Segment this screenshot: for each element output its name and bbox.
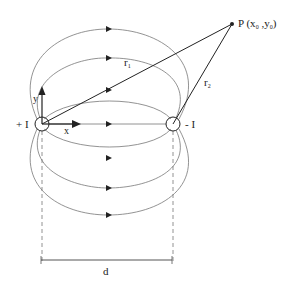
source-left-label: + I xyxy=(16,118,29,130)
arrowhead-icon xyxy=(106,185,112,191)
field-line-upper-1 xyxy=(44,101,171,119)
arrowhead-icon xyxy=(106,55,112,61)
field-line-upper-2 xyxy=(37,58,180,118)
y-axis-arrow-icon xyxy=(39,86,46,95)
arrowhead-icon xyxy=(106,121,112,127)
field-arrows xyxy=(106,26,112,218)
field-lines-upper xyxy=(30,29,188,119)
point-p-marker xyxy=(230,22,234,26)
point-p-label: P (x0 ,y0) xyxy=(238,17,277,30)
arrowhead-icon xyxy=(106,155,112,161)
field-lines-lower xyxy=(30,129,188,215)
x-axis-arrow-icon xyxy=(72,120,81,128)
current-source-right xyxy=(166,117,180,131)
y-axis-label: y xyxy=(33,93,38,104)
dimension-label: d xyxy=(103,265,109,277)
dipole-field-diagram: d r1 r2 P (x0 ,y0) y x + I - I xyxy=(0,0,293,283)
vector-r1 xyxy=(42,24,232,124)
arrowhead-icon xyxy=(106,212,112,218)
field-line-lower-3 xyxy=(30,129,188,215)
arrowhead-icon xyxy=(106,26,112,32)
source-right-label: - I xyxy=(185,118,195,130)
r1-label: r1 xyxy=(124,56,131,69)
r2-label: r2 xyxy=(204,76,211,89)
current-source-left xyxy=(35,117,49,131)
x-axis-label: x xyxy=(64,125,69,136)
